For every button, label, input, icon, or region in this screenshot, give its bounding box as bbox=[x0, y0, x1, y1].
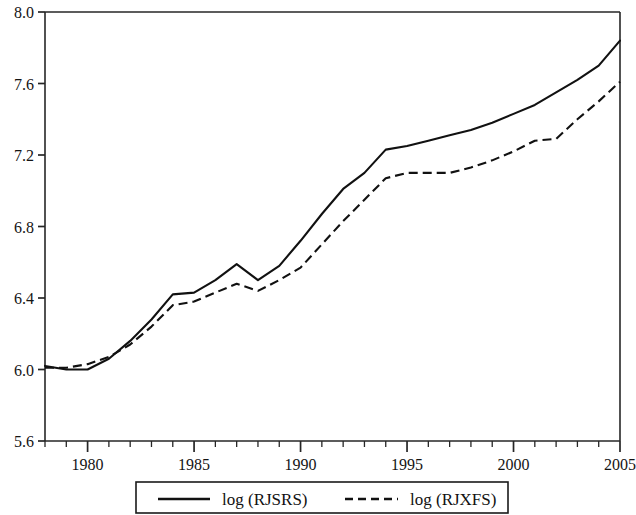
legend-label-rjsrs: log (RJSRS) bbox=[222, 490, 308, 509]
series-line-rjsrs bbox=[45, 41, 620, 370]
chart-legend: log (RJSRS) log (RJXFS) bbox=[136, 482, 508, 513]
y-tick-label: 6.0 bbox=[14, 362, 34, 379]
y-tick-label: 7.6 bbox=[14, 76, 34, 93]
y-axis-tick-labels: 8.07.67.26.86.46.05.6 bbox=[14, 4, 34, 450]
y-tick-label: 5.6 bbox=[14, 433, 34, 450]
x-tick-label: 1990 bbox=[285, 456, 317, 473]
x-tick-label: 2000 bbox=[498, 456, 530, 473]
x-tick-label: 2005 bbox=[604, 456, 636, 473]
x-tick-label: 1985 bbox=[178, 456, 210, 473]
y-tick-label: 6.8 bbox=[14, 219, 34, 236]
chart-canvas: 8.07.67.26.86.46.05.6 198019851990199520… bbox=[0, 0, 636, 515]
x-axis-tick-labels: 198019851990199520002005 bbox=[72, 456, 636, 473]
data-series-group bbox=[45, 41, 620, 370]
x-tick-label: 1980 bbox=[72, 456, 104, 473]
x-axis-ticks bbox=[45, 441, 620, 452]
y-tick-label: 8.0 bbox=[14, 4, 34, 21]
legend-label-rjxfs: log (RJXFS) bbox=[410, 490, 496, 509]
line-chart: 8.07.67.26.86.46.05.6 198019851990199520… bbox=[0, 0, 636, 515]
y-tick-label: 6.4 bbox=[14, 290, 34, 307]
x-tick-label: 1995 bbox=[391, 456, 423, 473]
y-tick-label: 7.2 bbox=[14, 147, 34, 164]
y-axis-ticks bbox=[38, 12, 45, 441]
series-line-rjxfs bbox=[45, 82, 620, 368]
plot-axes bbox=[45, 12, 620, 441]
